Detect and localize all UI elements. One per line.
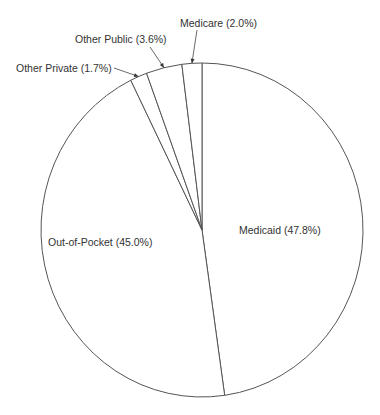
label-other-private: Other Private (1.7%) (16, 62, 112, 74)
arrowhead-icon (191, 59, 195, 64)
pie-chart: Medicaid (47.8%) Out-of-Pocket (45.0%) O… (0, 0, 380, 415)
arrowhead-icon (134, 73, 139, 77)
label-medicaid: Medicaid (47.8%) (239, 224, 321, 236)
label-other-public: Other Public (3.6%) (75, 33, 167, 45)
arrowhead-icon (160, 63, 164, 68)
label-medicare: Medicare (2.0%) (180, 17, 257, 29)
label-out-of-pocket: Out-of-Pocket (45.0%) (48, 236, 152, 248)
leader-line (192, 30, 197, 63)
